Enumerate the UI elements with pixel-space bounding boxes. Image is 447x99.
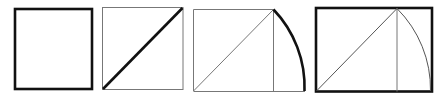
step-4-golden-rectangle bbox=[316, 8, 432, 92]
bold-diagonal-line bbox=[103, 8, 183, 89]
step-2-square-diagonal bbox=[103, 8, 184, 90]
step-3-arc-construction bbox=[194, 10, 306, 92]
step-1-square bbox=[15, 9, 92, 89]
diagonal-line bbox=[317, 9, 398, 92]
bold-arc bbox=[274, 10, 305, 92]
arc-line bbox=[397, 9, 431, 92]
golden-rectangle-diagram bbox=[0, 0, 447, 99]
diagonal-line bbox=[194, 10, 274, 92]
